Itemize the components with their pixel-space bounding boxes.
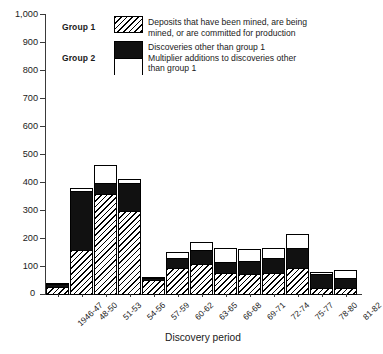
y-axis-tick-label: 400 — [23, 177, 38, 187]
bar-69-71 — [238, 249, 261, 294]
x-axis-label-75-77: 75-77 — [312, 300, 334, 322]
bar-segment-hatch — [214, 273, 237, 295]
bar-segment-hatch — [238, 274, 261, 295]
bar-segment-black — [286, 248, 309, 269]
bar-66-68 — [214, 248, 237, 294]
bar-segment-hatch — [262, 273, 285, 295]
bar-72-74 — [262, 248, 285, 294]
x-axis-label-60-62: 60-62 — [192, 300, 214, 322]
x-axis-label-51-53: 51-53 — [120, 300, 142, 322]
x-axis-label-78-80: 78-80 — [336, 300, 358, 322]
bar-57-59 — [142, 277, 165, 294]
x-axis-label-57-59: 57-59 — [168, 300, 190, 322]
x-axis-tick — [82, 294, 83, 297]
bar-segment-hatch — [118, 211, 141, 295]
bar-segment-hatch — [166, 268, 189, 295]
x-axis-tick — [274, 294, 275, 297]
x-axis-label-69-71: 69-71 — [264, 300, 286, 322]
y-axis-tick-label: 100 — [23, 261, 38, 271]
bar-segment-black — [70, 191, 93, 251]
bar-segment-white — [286, 234, 309, 249]
bar-1946-47 — [46, 283, 69, 294]
y-axis-zero-label: 0 — [30, 288, 35, 298]
y-axis-tick-label: 500 — [23, 149, 38, 159]
x-axis-label-54-56: 54-56 — [144, 300, 166, 322]
y-axis-tick-label: 1,000 — [15, 9, 38, 19]
x-axis-tick — [58, 294, 59, 297]
bar-segment-black — [238, 261, 261, 275]
x-axis-tick — [154, 294, 155, 297]
bar-segment-white — [214, 248, 237, 263]
x-axis-title: Discovery period — [45, 332, 361, 343]
bar-segment-black — [190, 250, 213, 265]
bar-segment-hatch — [142, 280, 165, 295]
bar-75-77 — [286, 234, 309, 294]
y-axis-tick-label: 300 — [23, 205, 38, 215]
bar-segment-black — [262, 258, 285, 273]
x-axis-tick — [130, 294, 131, 297]
y-axis-tick-label: 800 — [23, 65, 38, 75]
bar-segment-black — [310, 274, 333, 289]
bar-segment-black — [118, 183, 141, 212]
x-axis-label-63-65: 63-65 — [216, 300, 238, 322]
x-axis-tick — [346, 294, 347, 297]
bar-54-56 — [118, 179, 141, 294]
x-axis-tick — [202, 294, 203, 297]
y-axis-tick-label: 900 — [23, 37, 38, 47]
x-axis-tick — [106, 294, 107, 297]
bar-segment-white — [94, 165, 117, 183]
y-axis-tick-label: 600 — [23, 121, 38, 131]
bar-51-53 — [94, 165, 117, 294]
bar-segment-hatch — [286, 268, 309, 295]
bar-segment-hatch — [70, 250, 93, 295]
x-axis-tick — [298, 294, 299, 297]
bar-series-group — [46, 14, 358, 294]
x-axis-tick — [178, 294, 179, 297]
bar-81-82 — [334, 270, 357, 294]
bar-segment-hatch — [94, 194, 117, 295]
x-axis-tick — [226, 294, 227, 297]
bar-segment-hatch — [190, 264, 213, 295]
bar-48-50 — [70, 188, 93, 294]
y-axis-tick-label: 700 — [23, 93, 38, 103]
y-axis-tick-label: 200 — [23, 233, 38, 243]
plot-area: 1002003004005006007008009001,000 1946-47… — [45, 14, 361, 294]
x-axis-label-72-74: 72-74 — [288, 300, 310, 322]
x-axis-label-81-82: 81-82 — [360, 300, 382, 322]
bar-78-80 — [310, 272, 333, 294]
bar-63-65 — [190, 242, 213, 294]
bar-60-62 — [166, 252, 189, 294]
x-axis-tick — [250, 294, 251, 297]
x-axis-label-66-68: 66-68 — [240, 300, 262, 322]
x-axis-tick — [322, 294, 323, 297]
